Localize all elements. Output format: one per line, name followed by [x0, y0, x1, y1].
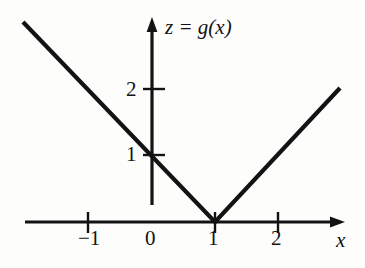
x-tick-label-minus1: −1 — [78, 228, 100, 249]
x-axis-arrowhead — [330, 217, 345, 228]
curve-label: z = g(x) — [165, 17, 232, 38]
coordinate-plot — [0, 0, 365, 268]
graph-figure: 2 1 −1 0 1 2 x z = g(x) — [0, 0, 365, 268]
y-axis-arrowhead — [147, 17, 158, 32]
x-tick-label-1: 1 — [208, 228, 219, 249]
x-tick-label-2: 2 — [271, 228, 282, 249]
x-axis-label: x — [336, 230, 345, 251]
x-tick-label-0: 0 — [145, 228, 156, 249]
curve-absolute-value — [23, 22, 340, 222]
y-tick-label-1: 1 — [126, 144, 137, 165]
y-tick-label-2: 2 — [126, 79, 137, 100]
